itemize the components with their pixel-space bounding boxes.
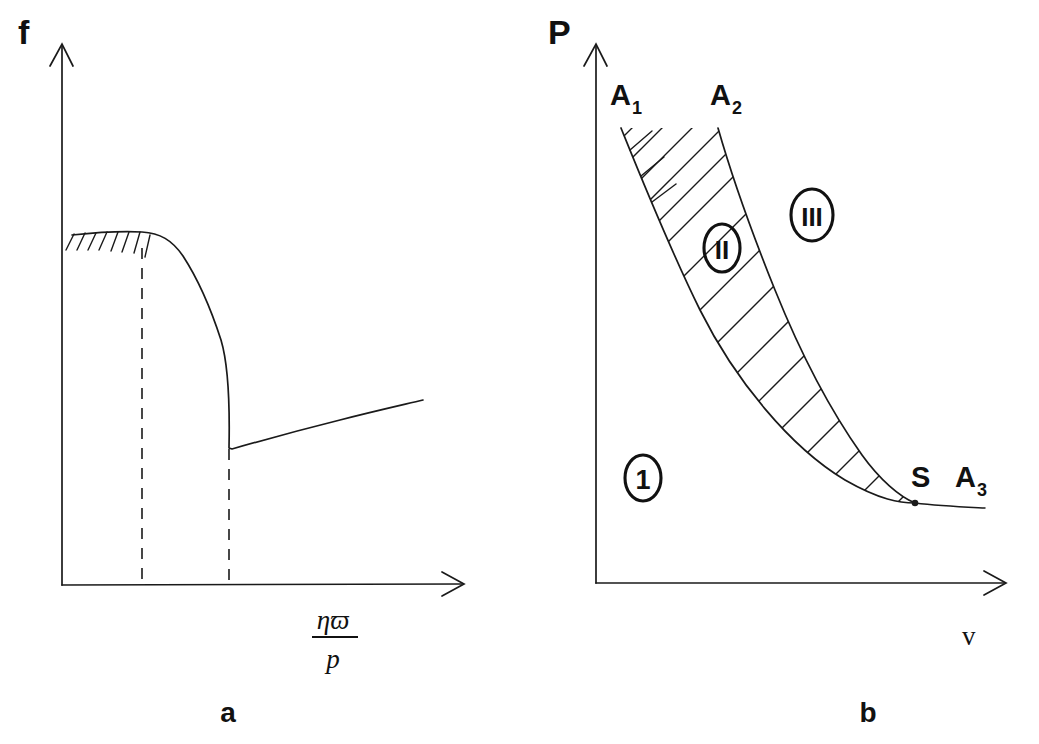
panel-a: f ηϖ p a	[18, 13, 464, 728]
panel-b-critical-point-marker	[912, 500, 919, 507]
panel-b: A 1 A 2 A 3 S 1 II	[548, 0, 1015, 728]
panel-a-x-axis-label: ηϖ p	[312, 605, 358, 674]
panel-b-y-axis-label: P	[548, 13, 571, 51]
panel-b-region-3-text: III	[801, 202, 823, 232]
panel-b-x-axis-label: v	[962, 621, 976, 651]
panel-a-y-axis-label: f	[18, 13, 30, 51]
panel-b-region-1-text: 1	[635, 465, 650, 495]
panel-b-label-a2: A 2	[710, 79, 742, 118]
panel-b-label-a1-base: A	[610, 79, 631, 111]
panel-b-region-label-3: III	[791, 189, 833, 241]
figure-canvas: f ηϖ p a	[0, 0, 1039, 744]
panel-b-label-a1: A 1	[610, 79, 642, 118]
panel-b-label-a3: A 3	[955, 461, 987, 500]
panel-b-label-a2-base: A	[710, 79, 731, 111]
figure-root: f ηϖ p a	[0, 0, 1039, 744]
panel-b-caption: b	[859, 697, 876, 728]
panel-b-label-a3-base: A	[955, 461, 976, 493]
panel-b-label-a1-subscript: 1	[632, 98, 642, 118]
panel-b-y-axis	[584, 44, 607, 583]
panel-b-region-label-2: II	[704, 224, 740, 272]
panel-a-x-axis-label-numerator: ηϖ	[317, 605, 349, 635]
panel-a-dashed-markers	[142, 248, 229, 584]
panel-b-curve-a2	[718, 128, 915, 503]
panel-b-curve-a3	[915, 503, 985, 508]
panel-b-x-axis	[596, 571, 1006, 595]
panel-a-x-axis	[62, 572, 464, 596]
panel-a-x-axis-label-denominator: p	[324, 644, 340, 674]
panel-b-label-a2-subscript: 2	[732, 98, 742, 118]
panel-b-region-label-1: 1	[625, 455, 661, 501]
panel-b-label-s: S	[911, 461, 930, 493]
panel-a-friction-curve	[72, 232, 423, 449]
panel-b-region-2-text: II	[715, 235, 729, 265]
panel-a-plateau-hatching	[66, 232, 150, 257]
panel-b-label-a3-subscript: 3	[977, 480, 987, 500]
panel-a-caption: a	[220, 697, 236, 728]
panel-a-y-axis	[50, 44, 73, 585]
